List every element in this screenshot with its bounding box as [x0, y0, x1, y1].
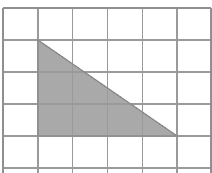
grid-triangle-figure: Grid with shaded right triangle A rectan… [0, 0, 212, 173]
figure-container: Grid with shaded right triangle A rectan… [0, 0, 212, 173]
